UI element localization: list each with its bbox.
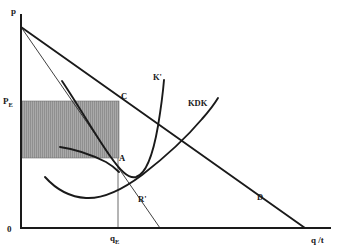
economics-diagram: p 0 q /t PE qE C A K' KDK R' D: [0, 0, 343, 251]
curve-label-d: D: [257, 192, 263, 202]
diagram-canvas: p 0 q /t PE qE C A K' KDK R' D: [0, 0, 343, 251]
point-label-a: A: [119, 153, 126, 163]
y-axis-label: p: [11, 6, 16, 16]
point-label-c: C: [121, 91, 127, 101]
x-axis-label: q /t: [311, 235, 324, 245]
origin-label: 0: [7, 224, 12, 234]
curve-label-k-prime: K': [153, 72, 162, 82]
curve-label-kdk: KDK: [188, 98, 208, 108]
curve-label-r-prime: R': [138, 194, 147, 204]
